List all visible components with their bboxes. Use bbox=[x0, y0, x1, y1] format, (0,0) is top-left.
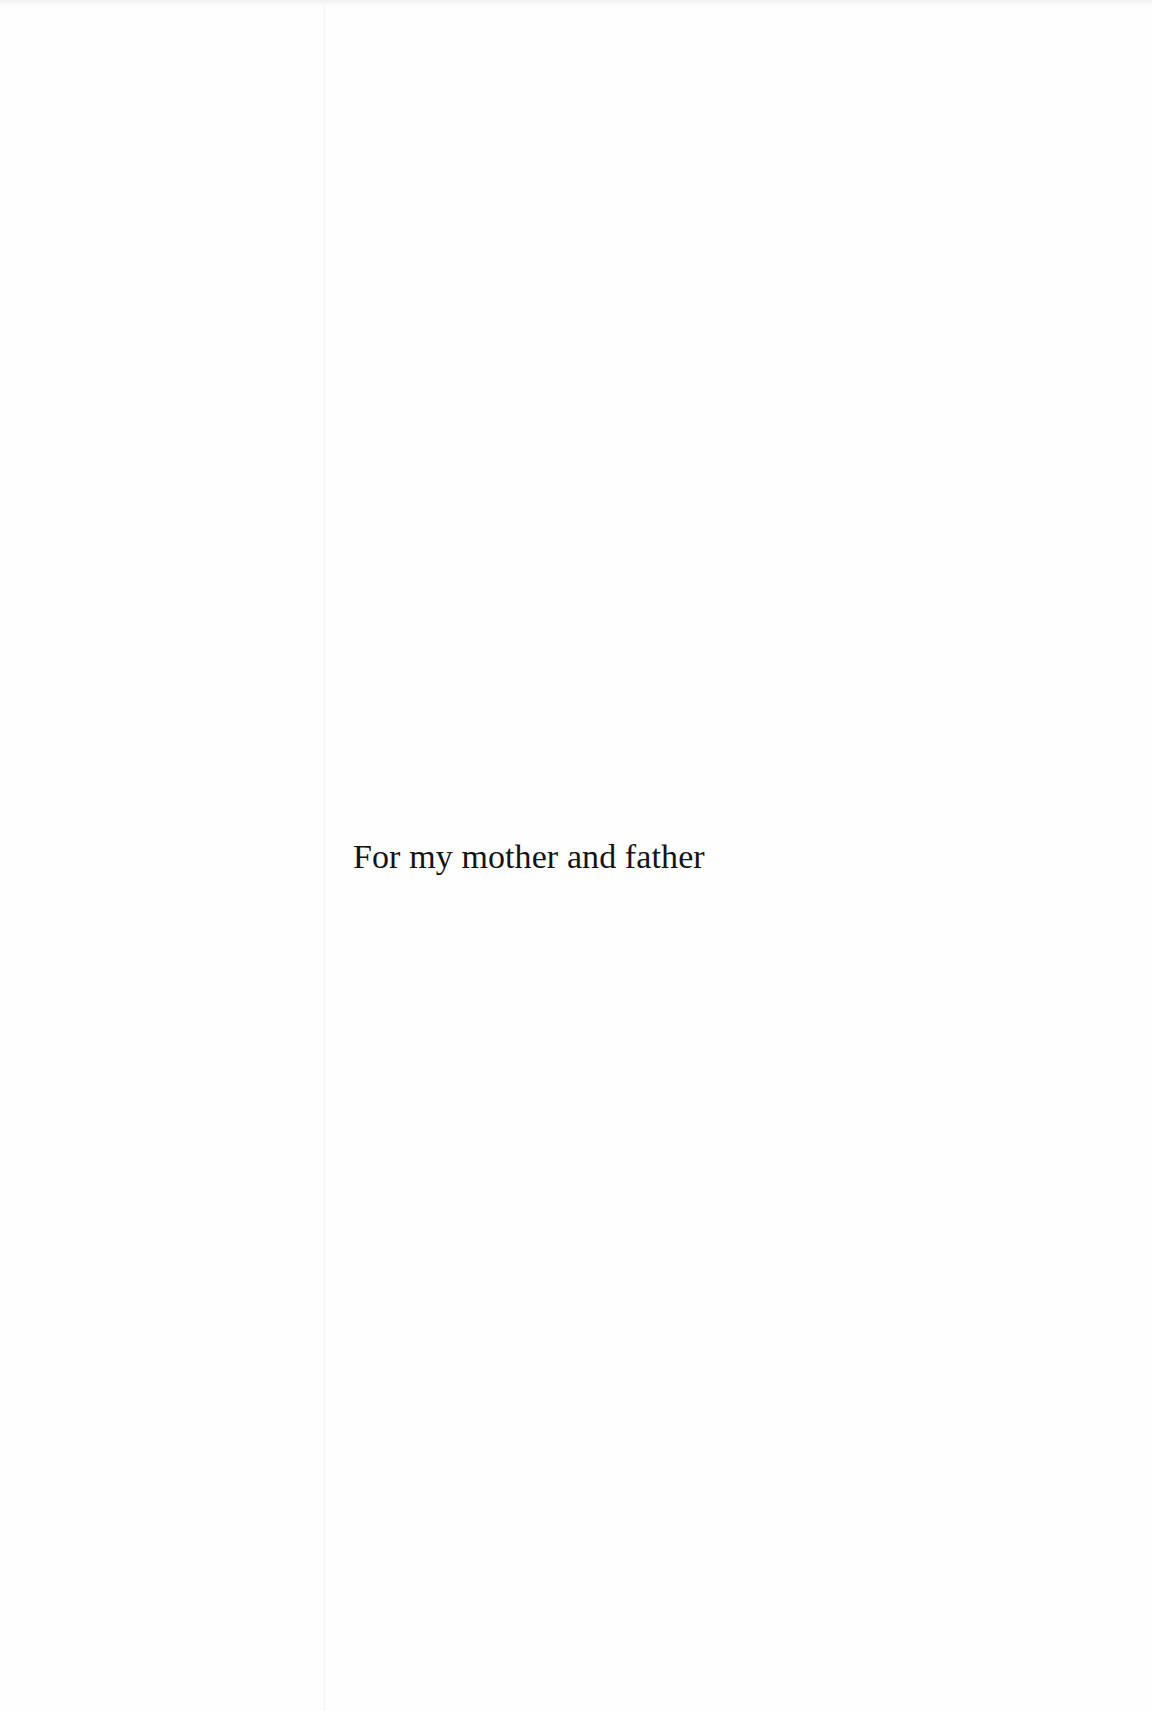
dedication-text: For my mother and father bbox=[353, 838, 705, 876]
scan-gutter-line bbox=[324, 0, 325, 1711]
scan-top-edge bbox=[0, 0, 1152, 6]
book-page: For my mother and father bbox=[0, 0, 1152, 1711]
